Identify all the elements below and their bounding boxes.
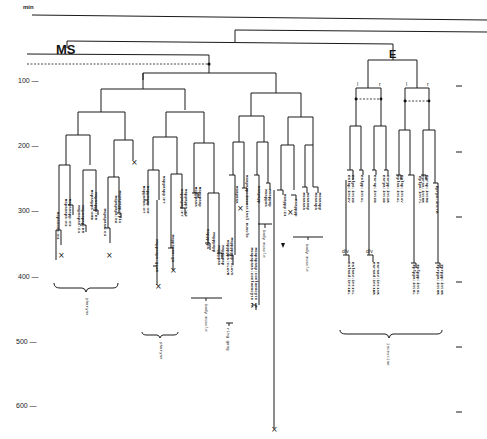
cell-label: Eprppp:int9R bbox=[440, 265, 444, 296]
cell-label: MSpaapaa:I4 bbox=[77, 205, 81, 233]
side-label-l: l bbox=[357, 81, 358, 87]
cell-label: MSppaaap:m6 bbox=[146, 186, 150, 214]
cell-label: MSppaapa:g1AR bbox=[155, 239, 159, 272]
right-tick-marks bbox=[456, 86, 462, 412]
tissue-label-ring-gang: ring gang bbox=[226, 328, 230, 351]
tissue-label-pharynx: pharynx bbox=[85, 298, 89, 316]
death-x-icon: × bbox=[237, 204, 244, 213]
cell-label: MSpppapp bbox=[212, 232, 216, 253]
cell-label: MSppppppp:CLAVS bbox=[230, 238, 234, 276]
death-x-icon: × bbox=[58, 251, 65, 260]
cell-label: MSpppaaa bbox=[194, 187, 198, 208]
cell-label: MSapppp bbox=[294, 199, 298, 217]
death-x-icon: × bbox=[155, 282, 162, 291]
death-x-icon: × bbox=[106, 251, 113, 260]
cell-label: MSaaapa bbox=[314, 193, 318, 211]
cell-label: Eplap:int4V bbox=[400, 175, 404, 203]
lineage-diagram: min 100 — 200 — 300 — 400 — 500 — 600 — … bbox=[0, 0, 487, 439]
cell-label: MSpaaaaa:m4 bbox=[56, 212, 60, 240]
cell-label: Ealpa:int2D bbox=[351, 175, 355, 203]
cell-label: Eplaa:int4L bbox=[396, 175, 400, 203]
tissue-label-body-muscle: body muscle bbox=[305, 244, 309, 272]
cell-label: MSpppaap bbox=[198, 187, 202, 208]
cell-label: Eplppa:int8L bbox=[412, 265, 416, 296]
cell-label: MSppaapp:m7 bbox=[162, 176, 166, 204]
cell-label: Epraa:int5R bbox=[421, 175, 425, 203]
cell-label: Ealaav:int1VL bbox=[351, 262, 355, 295]
cell-label: Earpa:int3D bbox=[382, 175, 386, 203]
time-axis: min 100 — 200 — 300 — 400 — 500 — 600 — bbox=[16, 4, 39, 409]
cell-label: MSpaappa:m5D bbox=[90, 190, 94, 221]
cell-label: MSapapaaa:coelomocyte PR bbox=[250, 248, 254, 309]
side-label-r: r bbox=[427, 81, 429, 87]
death-x-icon: × bbox=[271, 425, 278, 434]
cell-label: MSappap bbox=[268, 189, 272, 207]
arrow-down-icon bbox=[281, 243, 285, 248]
cell-label: MSapaap:intestinal muscle bbox=[245, 175, 249, 238]
cell-label: Eplppp:int9L bbox=[416, 265, 420, 296]
cell-label: Ealpp:int3L bbox=[360, 175, 364, 203]
cell-label: MSapaaa bbox=[235, 186, 239, 204]
ms-lineage-tree bbox=[56, 73, 318, 428]
tissue-label-intestine: intestine bbox=[386, 343, 390, 366]
e-lineage-tree bbox=[343, 60, 440, 268]
upper-lineage-lines bbox=[27, 15, 487, 73]
axis-tick-500: 500 — bbox=[16, 338, 37, 345]
division-dot bbox=[207, 62, 210, 65]
cell-label: MSpaaapp:m3 bbox=[68, 199, 72, 227]
cell-label: MSappp:Z1 bbox=[283, 194, 287, 217]
cell-label: MSaaaaa bbox=[302, 193, 306, 211]
death-x-icon: × bbox=[170, 266, 177, 275]
side-label-r: r bbox=[379, 81, 381, 87]
cell-label: MSappaa bbox=[264, 189, 268, 207]
cell-label: Ealap:int2V bbox=[347, 175, 351, 203]
tissue-label-pharynx: pharynx bbox=[159, 342, 163, 360]
cell-label: MSpaappp:m5 bbox=[94, 192, 98, 220]
axis-tick-100: 100 — bbox=[18, 77, 39, 84]
cell-label: Earpp:int3R bbox=[386, 175, 390, 203]
axis-tick-300: 300 — bbox=[18, 207, 39, 214]
death-x-icon: × bbox=[131, 158, 138, 167]
death-x-icon: × bbox=[287, 208, 294, 217]
side-label-l: l bbox=[406, 81, 407, 87]
cell-label: MSapapp bbox=[257, 186, 261, 204]
axis-unit-label: min bbox=[23, 4, 34, 10]
cell-label: MSpaapap:m5 bbox=[81, 205, 85, 233]
axis-tick-600: 600 — bbox=[16, 402, 37, 409]
cell-label: MSaaaap bbox=[306, 193, 310, 211]
cell-label: MSpppapa bbox=[206, 229, 210, 250]
lineage-label-e: E bbox=[389, 48, 396, 60]
cell-label: Eprap:int5D bbox=[425, 175, 429, 203]
cell-label: MSpapapp:vpi1 bbox=[118, 191, 122, 224]
tissue-label-body-muscle: body muscle bbox=[262, 230, 266, 258]
cell-label: MSpapapa:m2 bbox=[114, 196, 118, 224]
cell-label: MSpaaapa:m3 bbox=[64, 199, 68, 227]
cell-label: MSppappa:m2 bbox=[184, 189, 188, 217]
tissue-label-body-muscle: body muscle bbox=[204, 304, 208, 332]
div-label: d/v bbox=[366, 248, 373, 254]
cell-label: Earaad:int1DR bbox=[372, 262, 376, 295]
cell-label: MSppppap bbox=[221, 245, 225, 266]
div-label: d/v bbox=[342, 248, 349, 254]
cell-label: MSppapaa:g2 bbox=[171, 235, 175, 263]
axis-tick-200: 200 — bbox=[18, 142, 39, 149]
tissue-brackets: pharynx pharynx body muscle ring gang bo… bbox=[54, 224, 442, 366]
cell-label: MSpppppa:CLAVR bbox=[226, 240, 230, 276]
cell-label: MSpapaaa:e3 bbox=[103, 209, 107, 237]
cell-label: MSppppaa bbox=[217, 245, 221, 266]
cell-label: MSaaapp bbox=[318, 193, 322, 211]
cell-label: Eprppa:int8R bbox=[436, 265, 440, 296]
cell-label: MSapapaap:coelomocyte AR bbox=[254, 248, 258, 309]
cell-label: Eprpa:int7R bbox=[435, 186, 439, 214]
cell-label: MSppapap:m7 bbox=[180, 189, 184, 217]
cell-label: Earaav:int1VR bbox=[376, 262, 380, 295]
cell-label: Ealaad:int1DL bbox=[347, 262, 351, 295]
cell-label: MSppaaaa:m7 bbox=[142, 186, 146, 214]
axis-tick-400: 400 — bbox=[18, 273, 39, 280]
cell-label: Earap:int2D bbox=[373, 175, 377, 203]
lineage-label-ms: MS bbox=[56, 42, 76, 57]
